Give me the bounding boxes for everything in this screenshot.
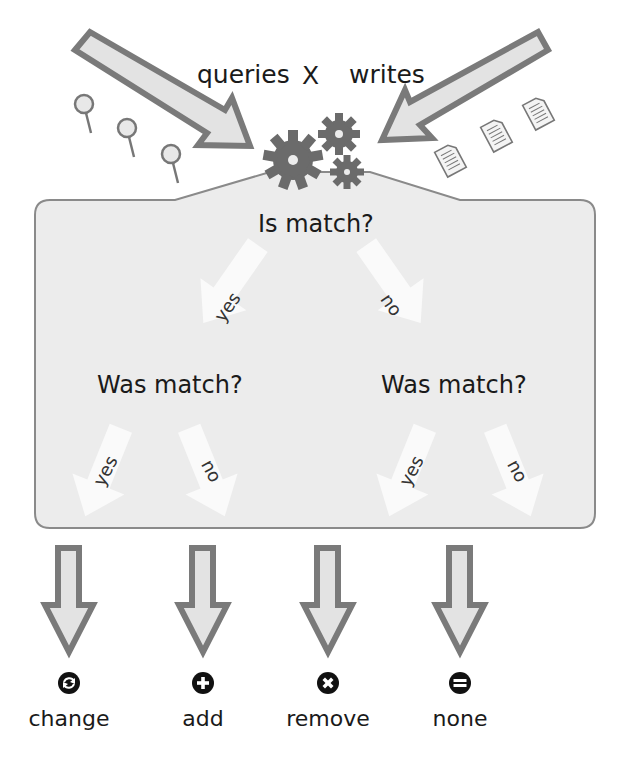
outcome-arrow-remove — [304, 548, 352, 652]
outcome-label-remove: remove — [286, 708, 370, 730]
outcome-label-none: none — [433, 708, 488, 730]
operator-label: X — [302, 63, 319, 88]
right-question: Was match? — [381, 373, 527, 397]
x-circle-icon — [317, 672, 339, 694]
queries-label: queries — [197, 62, 290, 87]
outcome-arrow-change — [45, 548, 93, 652]
outcome-arrow-none — [436, 548, 484, 652]
outcome-label-add: add — [182, 708, 223, 730]
outcome-label-change: change — [29, 708, 110, 730]
left-question: Was match? — [97, 373, 243, 397]
root-question: Is match? — [258, 212, 374, 236]
refresh-circle-icon — [58, 672, 80, 694]
queries-arrow — [75, 32, 250, 146]
outcome-arrow-add — [179, 548, 227, 652]
equals-circle-icon — [449, 672, 471, 694]
writes-label: writes — [349, 62, 425, 87]
plus-circle-icon — [192, 672, 214, 694]
diagram-canvas — [0, 0, 625, 762]
